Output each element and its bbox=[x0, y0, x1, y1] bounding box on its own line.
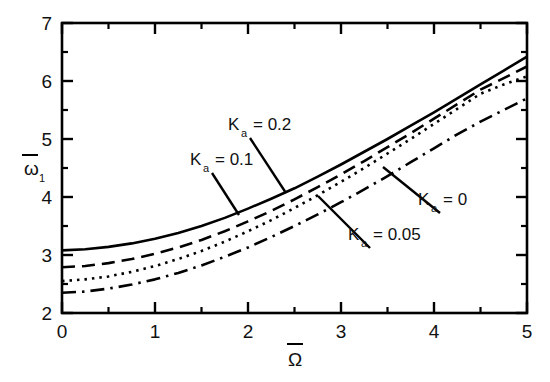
x-tick-label: 5 bbox=[522, 321, 533, 342]
x-axis-title-text: Ω bbox=[288, 349, 302, 370]
figure-container: 012345234567 Ka= 0.2Ka= 0.1Ka= 0Ka= 0.05… bbox=[0, 0, 550, 382]
y-tick-label: 3 bbox=[41, 245, 52, 266]
x-tick-label: 2 bbox=[243, 321, 254, 342]
ann-ka-0-sub: a bbox=[431, 202, 438, 214]
ann-ka-02-k: K bbox=[228, 115, 240, 134]
chart-background bbox=[0, 0, 550, 382]
y-tick-label: 7 bbox=[41, 13, 52, 34]
y-axis-title-omega: ω bbox=[24, 158, 39, 179]
x-tick-label: 3 bbox=[336, 321, 347, 342]
ann-ka-02-value: = 0.2 bbox=[253, 115, 291, 134]
x-tick-label: 0 bbox=[57, 321, 68, 342]
line-chart: 012345234567 Ka= 0.2Ka= 0.1Ka= 0Ka= 0.05… bbox=[0, 0, 550, 382]
ann-ka-005-k: K bbox=[348, 225, 360, 244]
x-tick-label: 4 bbox=[429, 321, 440, 342]
x-tick-label: 1 bbox=[150, 321, 161, 342]
ann-ka-01-sub: a bbox=[203, 162, 210, 174]
ann-ka-02-sub: a bbox=[241, 127, 248, 139]
y-tick-label: 2 bbox=[41, 303, 52, 324]
ann-ka-005-sub: a bbox=[361, 237, 368, 249]
ann-ka-0-k: K bbox=[418, 190, 430, 209]
y-tick-label: 4 bbox=[41, 187, 52, 208]
ann-ka-0-value: = 0 bbox=[443, 190, 467, 209]
y-tick-label: 5 bbox=[41, 129, 52, 150]
ann-ka-005-value: = 0.05 bbox=[373, 225, 421, 244]
ann-ka-01-k: K bbox=[190, 150, 202, 169]
y-axis-title-subscript: 1 bbox=[39, 172, 45, 184]
ann-ka-01-value: = 0.1 bbox=[215, 150, 253, 169]
y-tick-label: 6 bbox=[41, 71, 52, 92]
